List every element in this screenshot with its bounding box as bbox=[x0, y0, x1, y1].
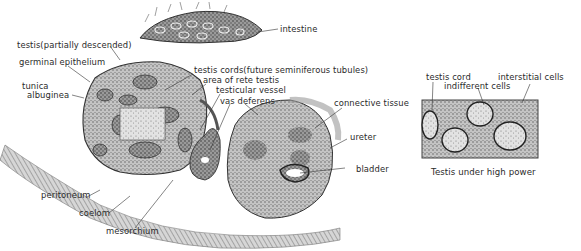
label-coelom: coelom bbox=[79, 209, 110, 218]
inset-drawing bbox=[422, 100, 538, 158]
intestine-drawing bbox=[140, 2, 262, 43]
label-germinal-epithelium: germinal epithelium bbox=[19, 58, 105, 67]
label-vas-deferens: vas deferens bbox=[220, 97, 275, 106]
label-area-of-rete-testis: area of rete testis bbox=[203, 76, 279, 85]
label-peritoneum: peritoneum bbox=[41, 191, 91, 200]
inset-caption: Testis under high power bbox=[431, 168, 536, 177]
label-intestine: intestine bbox=[280, 25, 317, 34]
inset-label-interstitial-cells: interstitial cells bbox=[498, 73, 564, 82]
label-ureter: ureter bbox=[350, 133, 376, 142]
inset-label-indifferent-cells: indifferent cells bbox=[444, 82, 510, 91]
label-albuginea: albuginea bbox=[27, 91, 69, 100]
label-testis-cords: testis cords(future seminiferous tubules… bbox=[194, 66, 368, 75]
testis-drawing bbox=[83, 62, 207, 175]
label-mesorchium: mesorchium bbox=[106, 227, 159, 236]
label-connective-tissue: connective tissue bbox=[334, 99, 409, 108]
bladder-region-drawing bbox=[227, 100, 338, 218]
anatomical-diagram: intestine testis(partially descended) ge… bbox=[0, 0, 581, 251]
label-testicular-vessel: testicular vessel bbox=[216, 86, 286, 95]
label-bladder: bladder bbox=[356, 165, 389, 174]
label-testis-partially-descended: testis(partially descended) bbox=[17, 41, 132, 50]
